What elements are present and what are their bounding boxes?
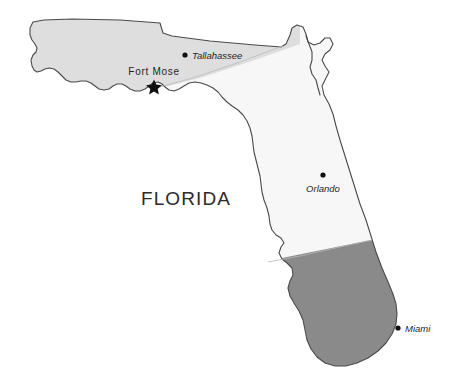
marker-miami[interactable]: Miami bbox=[395, 323, 431, 334]
map-canvas: FLORIDA Tallahassee Fort Mose Orlando Mi… bbox=[0, 0, 452, 382]
city-dot-icon bbox=[182, 52, 187, 57]
marker-tallahassee[interactable]: Tallahassee bbox=[182, 50, 242, 61]
city-dot-icon bbox=[395, 325, 400, 330]
city-dot-icon bbox=[320, 172, 325, 177]
florida-map-figure: FLORIDA Tallahassee Fort Mose Orlando Mi… bbox=[0, 0, 452, 382]
city-label-tallahassee: Tallahassee bbox=[192, 50, 242, 61]
site-label-fort-mose: Fort Mose bbox=[128, 66, 179, 77]
city-label-miami: Miami bbox=[405, 323, 431, 334]
city-label-orlando: Orlando bbox=[306, 183, 340, 194]
page-title: FLORIDA bbox=[141, 188, 231, 209]
